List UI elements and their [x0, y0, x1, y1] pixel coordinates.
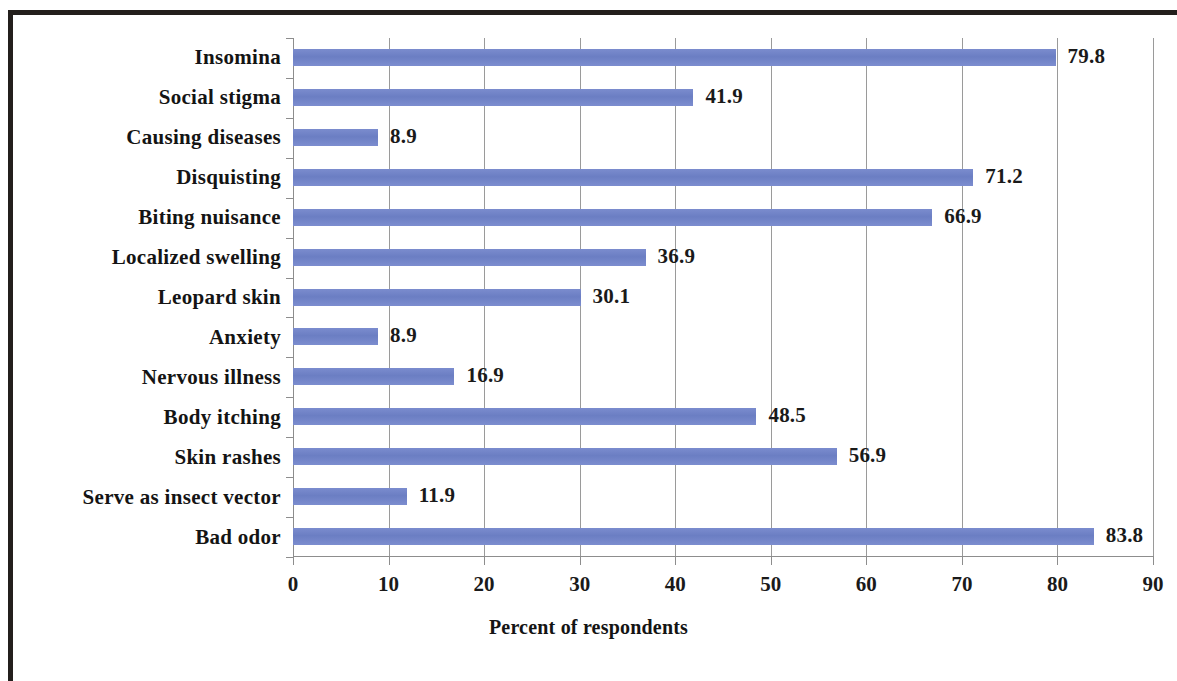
category-label-text: Leopard skin — [0, 285, 281, 310]
y-axis-category-label: Anxiety — [0, 317, 281, 357]
bar-value-label: 8.9 — [390, 323, 417, 348]
bar-row: 8.9 — [293, 317, 1153, 357]
x-axis-tick-80 — [1057, 557, 1058, 565]
x-axis-tick-label: 10 — [378, 572, 399, 597]
x-axis-tick-label: 70 — [951, 572, 972, 597]
bar — [293, 89, 693, 106]
y-axis-category-label: Social stigma — [0, 78, 281, 118]
y-axis-category-label: Insomina — [0, 38, 281, 78]
bar-value-label: 41.9 — [705, 84, 743, 109]
bar — [293, 209, 932, 226]
y-axis-tick — [286, 397, 293, 398]
x-axis-tick-90 — [1153, 557, 1154, 565]
bar-value-label: 48.5 — [768, 403, 806, 428]
x-axis-tick-50 — [771, 557, 772, 565]
bar-value-label: 66.9 — [944, 204, 982, 229]
y-axis-tick — [286, 38, 293, 39]
bar — [293, 328, 378, 345]
bar — [293, 169, 973, 186]
category-label-text: Biting nuisance — [0, 205, 281, 230]
bar — [293, 249, 646, 266]
y-axis-category-label: Biting nuisance — [0, 198, 281, 238]
y-axis-tick — [286, 158, 293, 159]
x-axis-title: Percent of respondents — [0, 616, 1177, 639]
y-axis-category-label: Skin rashes — [0, 437, 281, 477]
y-axis-tick — [286, 557, 293, 558]
y-axis-tick — [286, 198, 293, 199]
bar-row: 56.9 — [293, 437, 1153, 477]
bar — [293, 368, 454, 385]
y-axis-category-label: Body itching — [0, 397, 281, 437]
bar-value-label: 56.9 — [849, 443, 887, 468]
x-axis-tick-label: 0 — [288, 572, 299, 597]
bar-value-label: 30.1 — [593, 284, 631, 309]
x-axis-tick-label: 90 — [1143, 572, 1164, 597]
y-axis-category-label: Localized swelling — [0, 238, 281, 278]
x-axis-tick-60 — [866, 557, 867, 565]
bar-row: 11.9 — [293, 477, 1153, 517]
bar-row: 48.5 — [293, 397, 1153, 437]
category-label-text: Social stigma — [0, 85, 281, 110]
y-axis-tick — [286, 477, 293, 478]
bar-row: 41.9 — [293, 78, 1153, 118]
bar-row: 30.1 — [293, 278, 1153, 318]
y-axis-category-label: Leopard skin — [0, 278, 281, 318]
category-label-text: Localized swelling — [0, 245, 281, 270]
bar-value-label: 8.9 — [390, 124, 417, 149]
bar — [293, 528, 1094, 545]
y-axis-tick — [286, 238, 293, 239]
x-axis-tick-label: 80 — [1047, 572, 1068, 597]
y-axis-category-label: Serve as insect vector — [0, 477, 281, 517]
gridline-90 — [1153, 38, 1154, 557]
plot-area: 79.841.98.971.266.936.930.18.916.948.556… — [293, 38, 1153, 557]
category-label-text: Skin rashes — [0, 445, 281, 470]
bar — [293, 289, 581, 306]
bar — [293, 488, 407, 505]
x-axis-tick-20 — [484, 557, 485, 565]
y-axis-tick — [286, 118, 293, 119]
category-label-text: Anxiety — [0, 325, 281, 350]
bar — [293, 49, 1056, 66]
bar-value-label: 83.8 — [1106, 523, 1144, 548]
x-axis-ticks — [293, 557, 1154, 567]
x-axis-tick-40 — [675, 557, 676, 565]
category-label-text: Serve as insect vector — [0, 485, 281, 510]
y-axis-tick — [286, 78, 293, 79]
x-axis-tick-label: 40 — [665, 572, 686, 597]
bar — [293, 129, 378, 146]
category-label-text: Causing diseases — [0, 125, 281, 150]
bar-row: 66.9 — [293, 198, 1153, 238]
x-axis-tick-labels: 0102030405060708090 — [0, 572, 1177, 604]
chart-figure: InsominaSocial stigmaCausing diseasesDis… — [0, 0, 1177, 681]
bar-row: 71.2 — [293, 158, 1153, 198]
bar-value-label: 79.8 — [1068, 44, 1106, 69]
y-axis-category-labels: InsominaSocial stigmaCausing diseasesDis… — [0, 38, 281, 557]
bar-row: 16.9 — [293, 357, 1153, 397]
x-axis-tick-30 — [580, 557, 581, 565]
category-label-text: Body itching — [0, 405, 281, 430]
y-axis-tick — [286, 278, 293, 279]
bar-row: 8.9 — [293, 118, 1153, 158]
x-axis-tick-label: 50 — [760, 572, 781, 597]
bar-row: 36.9 — [293, 238, 1153, 278]
bar — [293, 448, 837, 465]
bar-row: 79.8 — [293, 38, 1153, 78]
x-axis-tick-label: 20 — [474, 572, 495, 597]
y-axis-category-label: Bad odor — [0, 517, 281, 557]
bar-value-label: 16.9 — [466, 363, 504, 388]
y-axis-category-label: Disquisting — [0, 158, 281, 198]
y-axis-tick — [286, 437, 293, 438]
category-label-text: Bad odor — [0, 525, 281, 550]
bar — [293, 408, 756, 425]
x-axis-tick-70 — [962, 557, 963, 565]
bar-row: 83.8 — [293, 517, 1153, 557]
y-axis-tick — [286, 317, 293, 318]
x-axis-tick-10 — [389, 557, 390, 565]
y-axis-category-label: Causing diseases — [0, 118, 281, 158]
bar-value-label: 36.9 — [658, 244, 696, 269]
y-axis-tick — [286, 357, 293, 358]
page-border-top — [8, 10, 1177, 15]
x-axis-tick-label: 60 — [856, 572, 877, 597]
category-label-text: Disquisting — [0, 165, 281, 190]
bar-value-label: 71.2 — [985, 164, 1023, 189]
